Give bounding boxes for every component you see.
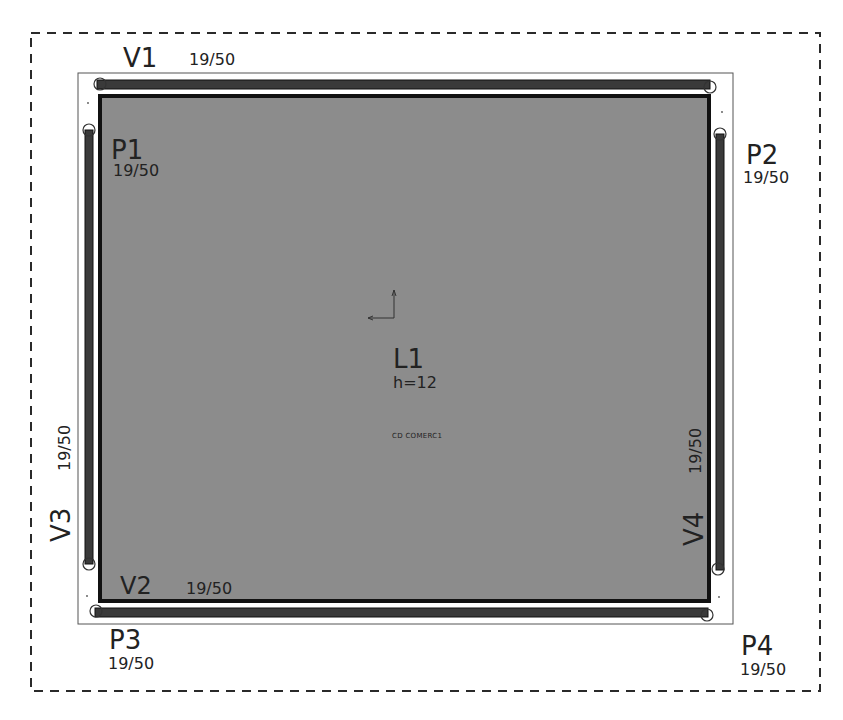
pillar-section-p2: 19/50 bbox=[743, 170, 789, 186]
slab-thickness: h=12 bbox=[393, 375, 437, 391]
beam-v1[interactable] bbox=[97, 80, 710, 89]
corner-dot bbox=[86, 595, 88, 597]
beam-section-v3: 19/50 bbox=[57, 425, 73, 471]
pillar-label-p3: P3 bbox=[109, 627, 141, 653]
beam-label-v2: V2 bbox=[120, 574, 152, 598]
pillar-label-p1: P1 bbox=[111, 137, 143, 163]
pillar-section-p1: 19/50 bbox=[113, 163, 159, 179]
beam-label-v4: V4 bbox=[681, 512, 707, 546]
beam-v4[interactable] bbox=[716, 134, 724, 570]
pillar-label-p4: P4 bbox=[741, 633, 773, 659]
pillar-label-p2: P2 bbox=[746, 142, 778, 168]
beam-section-v2: 19/50 bbox=[186, 581, 232, 597]
beam-v3[interactable] bbox=[85, 130, 93, 564]
slab-load-label: CD COMERC1 bbox=[392, 433, 442, 440]
corner-dot bbox=[721, 111, 723, 113]
pillar-section-p4: 19/50 bbox=[740, 662, 786, 678]
corner-dot bbox=[87, 102, 89, 104]
corner-dot bbox=[718, 596, 720, 598]
beam-v2[interactable] bbox=[95, 608, 708, 617]
beam-label-v1: V1 bbox=[123, 45, 157, 71]
beam-section-v4: 19/50 bbox=[688, 428, 704, 474]
pillar-section-p3: 19/50 bbox=[108, 656, 154, 672]
beam-label-v3: V3 bbox=[48, 508, 74, 542]
beam-section-v1: 19/50 bbox=[189, 52, 235, 68]
slab-name: L1 bbox=[393, 346, 424, 372]
